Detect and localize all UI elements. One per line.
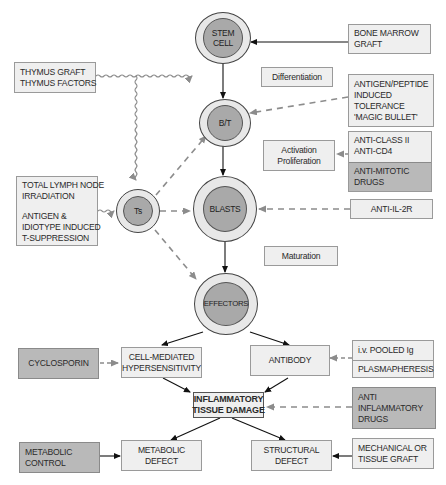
antigen-peptide-line-4: 'MAGIC BULLET' bbox=[354, 112, 428, 123]
arrow-inflammatory-to-metabolic bbox=[171, 418, 220, 440]
box-metabolic-defect: METABOLIC DEFECT bbox=[121, 440, 202, 471]
pooled-ig-label: i.v. POOLED Ig bbox=[358, 345, 413, 355]
mechanical-graft-line-1: MECHANICAL OR bbox=[358, 443, 428, 454]
anti-class-line-2: ANTI-CD4 bbox=[354, 146, 426, 157]
dashed-antigen-to-bt bbox=[250, 97, 348, 113]
anti-class-line-1: ANTI-CLASS II bbox=[354, 135, 426, 146]
thymus-line-2: THYMUS FACTORS bbox=[20, 78, 90, 89]
box-pooled-ig: i.v. POOLED Ig bbox=[353, 341, 433, 360]
box-thymus-graft-factors: THYMUS GRAFT THYMUS FACTORS bbox=[14, 62, 96, 93]
wavy-thymus-to-stem-bt bbox=[96, 75, 192, 77]
box-lymph-node-t-suppression: TOTAL LYMPH NODE IRRADIATION ANTIGEN & I… bbox=[16, 176, 98, 246]
box-cyclosporin: CYCLOSPORIN bbox=[18, 348, 99, 379]
metabolic-control-line-1: METABOLIC bbox=[25, 447, 94, 458]
dashed-ts-to-bt bbox=[156, 136, 206, 195]
stem-cell-label-1: STEM bbox=[212, 28, 234, 38]
dashed-ts-to-effectors bbox=[155, 230, 196, 279]
anti-mitotic-line-2: DRUGS bbox=[354, 177, 426, 188]
antigen-idiotype-line-3: T-SUPPRESSION bbox=[22, 233, 92, 244]
stage-activation-label: Activation bbox=[281, 145, 316, 156]
antigen-peptide-line-2: INDUCED bbox=[354, 90, 428, 101]
wavy-thymus-to-ts bbox=[135, 76, 137, 180]
box-mechanical-tissue-graft: MECHANICAL OR TISSUE GRAFT bbox=[352, 438, 434, 469]
effectors-cell-label: EFFECTORS bbox=[204, 299, 248, 309]
anti-inflammatory-line-1: ANTI bbox=[358, 392, 430, 403]
box-bone-marrow-graft: BONE MARROW GRAFT bbox=[348, 24, 431, 54]
blasts-cell-node: BLASTS bbox=[193, 176, 257, 242]
metabolic-control-line-2: CONTROL bbox=[25, 458, 94, 469]
inflammatory-line-2: TISSUE DAMAGE bbox=[192, 405, 264, 416]
arrow-antibody-to-inflammatory bbox=[265, 378, 288, 392]
box-metabolic-control: METABOLIC CONTROL bbox=[19, 442, 100, 473]
ts-cell-label: Ts bbox=[134, 206, 142, 216]
bt-cell-label: B/T bbox=[219, 118, 231, 128]
cyclosporin-label: CYCLOSPORIN bbox=[28, 358, 88, 369]
inflammatory-line-1: INFLAMMATORY bbox=[194, 394, 263, 405]
stem-cell-node: STEM CELL bbox=[195, 12, 251, 64]
anti-inflammatory-line-2: INFLAMMATORY bbox=[358, 403, 430, 414]
box-pooled-ig-plasmapheresis: i.v. POOLED Ig PLASMAPHERESIS bbox=[352, 340, 434, 378]
box-anti-class-cd4: ANTI-CLASS II ANTI-CD4 bbox=[349, 132, 431, 162]
mechanical-graft-line-2: TISSUE GRAFT bbox=[358, 454, 428, 465]
blasts-cell-label: BLASTS bbox=[210, 204, 241, 214]
stage-maturation-label: Maturation bbox=[282, 251, 321, 262]
stage-differentiation-label: Differentiation bbox=[272, 72, 322, 83]
antigen-idiotype-line-1: ANTIGEN & bbox=[22, 211, 92, 222]
thymus-line-1: THYMUS GRAFT bbox=[20, 67, 90, 78]
antibody-label: ANTIBODY bbox=[269, 355, 311, 366]
box-inflammatory-tissue-damage: INFLAMMATORY TISSUE DAMAGE bbox=[193, 392, 264, 418]
ts-cell-node: Ts bbox=[116, 189, 160, 233]
antigen-peptide-line-1: ANTIGEN/PEPTIDE bbox=[354, 79, 428, 90]
total-lymph-line-2: IRRADIATION bbox=[22, 191, 92, 202]
antigen-peptide-line-3: TOLERANCE bbox=[354, 101, 428, 112]
box-antibody: ANTIBODY bbox=[250, 345, 330, 376]
spacer bbox=[22, 202, 92, 211]
effectors-cell-node: EFFECTORS bbox=[194, 273, 258, 335]
anti-inflammatory-line-3: DRUGS bbox=[358, 414, 430, 425]
stage-proliferation-label: Proliferation bbox=[277, 156, 320, 167]
arrow-effectors-to-cellmediated bbox=[162, 332, 203, 345]
stage-activation-proliferation: Activation Proliferation bbox=[263, 140, 335, 171]
stem-cell-label-2: CELL bbox=[213, 38, 233, 48]
cell-mediated-line-2: HYPERSENSITIVITY bbox=[122, 363, 201, 374]
bt-cell-node: B/T bbox=[199, 99, 251, 147]
box-anti-mitotic-drugs: ANTI-MITOTIC DRUGS bbox=[349, 162, 431, 191]
arrow-inflammatory-to-structural bbox=[232, 418, 285, 440]
box-anti-inflammatory-drugs: ANTI INFLAMMATORY DRUGS bbox=[352, 387, 436, 429]
plasmapheresis-label: PLASMAPHERESIS bbox=[358, 364, 434, 374]
structural-defect-label: STRUCTURAL DEFECT bbox=[257, 445, 326, 467]
box-anti-class-mitotic: ANTI-CLASS II ANTI-CD4 ANTI-MITOTIC DRUG… bbox=[348, 131, 432, 192]
total-lymph-line-1: TOTAL LYMPH NODE bbox=[22, 180, 92, 191]
box-structural-defect: STRUCTURAL DEFECT bbox=[251, 440, 332, 471]
antigen-idiotype-line-2: IDIOTYPE INDUCED bbox=[22, 222, 92, 233]
box-cell-mediated-hypersensitivity: CELL-MEDIATED HYPERSENSITIVITY bbox=[121, 347, 202, 378]
anti-il2r-label: ANTI-IL-2R bbox=[371, 204, 412, 215]
box-antigen-peptide-tolerance: ANTIGEN/PEPTIDE INDUCED TOLERANCE 'MAGIC… bbox=[348, 74, 434, 127]
box-plasmapheresis: PLASMAPHERESIS bbox=[353, 360, 433, 377]
wavy-lymph-to-ts bbox=[98, 210, 114, 212]
metabolic-defect-label: METABOLIC DEFECT bbox=[127, 445, 196, 467]
arrow-effectors-to-antibody bbox=[250, 332, 289, 345]
bone-marrow-line-1: BONE MARROW bbox=[354, 28, 425, 39]
arrow-cellmediated-to-inflammatory bbox=[163, 378, 190, 392]
box-anti-il2r: ANTI-IL-2R bbox=[350, 199, 433, 219]
bone-marrow-line-2: GRAFT bbox=[354, 39, 425, 50]
cell-mediated-line-1: CELL-MEDIATED bbox=[129, 352, 195, 363]
stage-differentiation: Differentiation bbox=[261, 67, 333, 87]
anti-mitotic-line-1: ANTI-MITOTIC bbox=[354, 166, 426, 177]
stage-maturation: Maturation bbox=[264, 246, 338, 266]
